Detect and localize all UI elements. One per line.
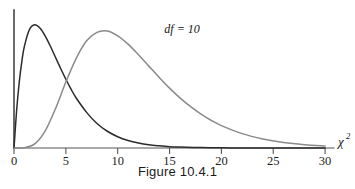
chi-symbol: χ xyxy=(336,134,344,149)
distribution-curves xyxy=(14,25,325,148)
x-axis-title: χ 2 xyxy=(336,131,351,149)
curve-df-4 xyxy=(14,25,325,148)
chi-square-figure: 051015202530 df = 4 df = 10 χ 2 Figure 1… xyxy=(0,0,355,189)
curve-label-df-10: df = 10 xyxy=(164,22,199,36)
chi-square-plot: 051015202530 df = 4 df = 10 χ 2 xyxy=(0,0,355,189)
figure-caption: Figure 10.4.1 xyxy=(0,164,355,179)
curve-annotations: df = 4 df = 10 xyxy=(76,0,200,36)
curve-df-10 xyxy=(14,31,325,148)
chi-exponent: 2 xyxy=(346,131,351,141)
